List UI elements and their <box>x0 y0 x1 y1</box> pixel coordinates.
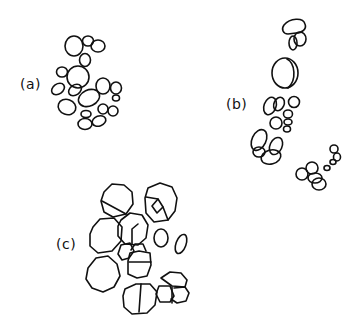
cell-drawings <box>0 0 359 322</box>
panel-a-cells <box>49 36 121 130</box>
cell-cluster-figure: (a) (b) (c) <box>0 0 359 322</box>
panel-b-cells <box>248 19 340 190</box>
panel-c-cells <box>86 183 189 314</box>
